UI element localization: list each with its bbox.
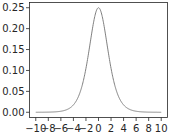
x-axis: −10−8−6−4−20246810 xyxy=(25,118,167,134)
x-tick-label: 2 xyxy=(108,123,114,134)
axes-frame xyxy=(30,3,168,118)
x-tick-label: 0 xyxy=(95,123,101,134)
x-tick-label: 6 xyxy=(133,123,139,134)
plot-area xyxy=(30,3,168,118)
y-tick-label: 0.15 xyxy=(2,44,24,55)
x-tick-label: 8 xyxy=(145,123,151,134)
y-tick-label: 0.05 xyxy=(2,86,24,97)
y-tick-label: 0.20 xyxy=(2,23,24,34)
y-tick-label: 0.00 xyxy=(2,107,24,118)
x-tick-label: −2 xyxy=(79,123,94,134)
x-tick-label: 4 xyxy=(120,123,126,134)
y-axis: 0.000.050.100.150.200.25 xyxy=(2,2,29,118)
y-tick-label: 0.10 xyxy=(2,65,24,76)
x-tick-label: 10 xyxy=(155,123,168,134)
y-tick-label: 0.25 xyxy=(2,2,24,13)
line-chart: −10−8−6−4−20246810 0.000.050.100.150.200… xyxy=(0,0,173,136)
